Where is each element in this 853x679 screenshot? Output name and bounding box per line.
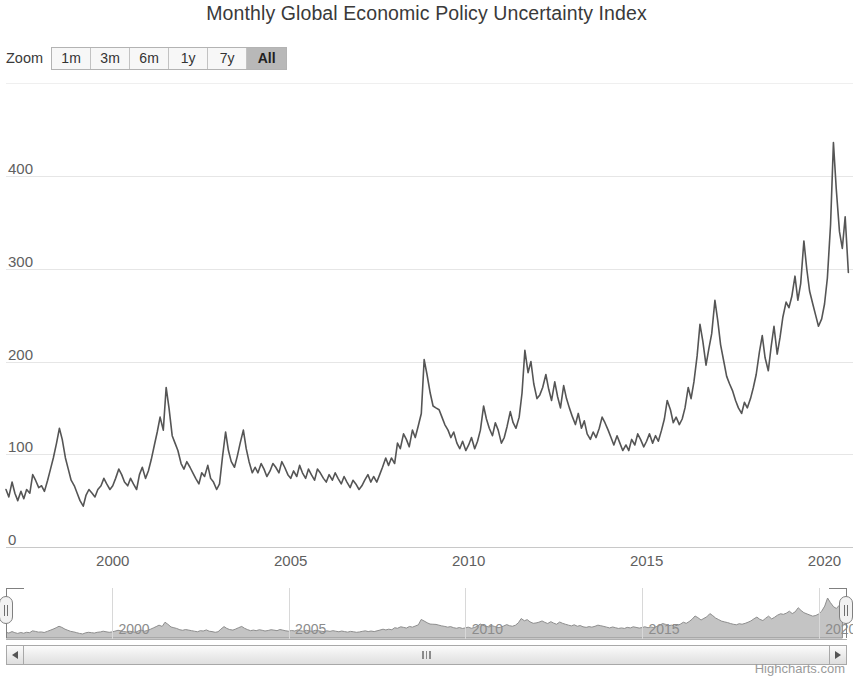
navigator-handle-right[interactable]	[839, 596, 853, 624]
x-axis-tick-label: 2015	[630, 553, 663, 568]
series-line-chart	[0, 78, 853, 550]
plot-area: 0100200300400	[0, 78, 853, 550]
range-selector-label: Zoom	[6, 51, 43, 66]
scrollbar-thumb[interactable]	[24, 646, 829, 664]
x-axis-labels: 20002005201020152020	[0, 553, 853, 575]
navigator-scrollbar[interactable]	[6, 645, 847, 665]
handle-grip-line	[7, 605, 8, 616]
navigator-handle-left[interactable]	[0, 596, 13, 624]
x-axis-tick-label: 2010	[452, 553, 485, 568]
x-axis-tick-label: 2020	[808, 553, 841, 568]
thumb-grip-line	[426, 651, 428, 659]
page-title: Monthly Global Economic Policy Uncertain…	[0, 2, 853, 25]
range-button-all[interactable]: All	[247, 48, 286, 69]
x-axis-tick-label: 2005	[274, 553, 307, 568]
range-selector-buttons: 1m3m6m1y7yAll	[51, 47, 287, 70]
thumb-grip-line	[429, 651, 431, 659]
thumb-grip-line	[422, 651, 424, 659]
range-button-3m[interactable]: 3m	[91, 48, 130, 69]
handle-grip-line	[847, 605, 848, 616]
stock-chart: Monthly Global Economic Policy Uncertain…	[0, 0, 853, 679]
range-button-6m[interactable]: 6m	[130, 48, 169, 69]
credits-link[interactable]: Highcharts.com	[755, 661, 845, 676]
handle-grip-line	[4, 605, 5, 616]
range-button-1y[interactable]: 1y	[169, 48, 208, 69]
navigator-outline	[6, 588, 847, 640]
range-button-1m[interactable]: 1m	[52, 48, 91, 69]
handle-grip-line	[844, 605, 845, 616]
range-selector: Zoom 1m3m6m1y7yAll	[6, 46, 287, 70]
navigator[interactable]: 20002005201020152020	[6, 588, 847, 640]
x-axis-tick-label: 2000	[96, 553, 129, 568]
scroll-left-arrow-icon[interactable]	[6, 645, 24, 665]
range-button-7y[interactable]: 7y	[208, 48, 247, 69]
series-path-global-epu	[6, 143, 848, 507]
scrollbar-track[interactable]	[24, 645, 829, 665]
navigator-right-handle-cap	[829, 588, 847, 589]
navigator-left-handle-cap	[6, 588, 24, 589]
